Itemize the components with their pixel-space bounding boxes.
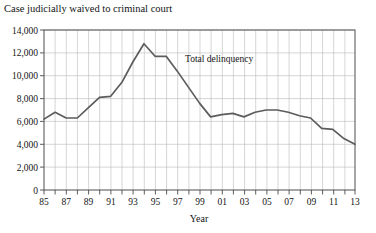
xtick-label-07: 07 (284, 197, 294, 207)
x-axis-title: Year (190, 213, 209, 224)
xtick-label-03: 03 (240, 197, 250, 207)
ytick-label-12000: 12,000 (12, 48, 38, 58)
xtick-label-93: 93 (128, 197, 138, 207)
xtick-label-91: 91 (106, 197, 116, 207)
xtick-label-95: 95 (151, 197, 161, 207)
ytick-label-10000: 10,000 (12, 71, 38, 81)
ytick-label-6000: 6,000 (17, 117, 39, 127)
x-tick-marks-group (44, 190, 355, 195)
xtick-label-89: 89 (84, 197, 94, 207)
ytick-label-0: 0 (33, 186, 38, 196)
ytick-label-2000: 2,000 (17, 163, 39, 173)
line-chart-plot: 14,000 12,000 10,000 8,000 6,000 4,000 2… (0, 0, 376, 233)
xtick-label-13: 13 (350, 197, 360, 207)
xtick-label-97: 97 (173, 197, 183, 207)
xtick-label-87: 87 (62, 197, 72, 207)
xtick-label-09: 09 (307, 197, 317, 207)
y-tick-marks-group (40, 30, 44, 190)
xtick-label-11: 11 (329, 197, 338, 207)
xtick-label-85: 85 (39, 197, 49, 207)
ytick-label-14000: 14,000 (12, 26, 38, 36)
xtick-label-99: 99 (195, 197, 205, 207)
x-axis-labels-group: 85 87 89 91 93 95 97 99 01 03 05 07 09 1… (39, 197, 360, 207)
chart-figure: Case judicially waived to criminal court (0, 0, 376, 233)
xtick-label-01: 01 (218, 197, 228, 207)
y-axis-labels-group: 14,000 12,000 10,000 8,000 6,000 4,000 2… (12, 26, 38, 196)
ytick-label-8000: 8,000 (17, 94, 39, 104)
xtick-label-05: 05 (262, 197, 272, 207)
series-annotation-total-delinquency: Total delinquency (185, 54, 253, 64)
ytick-label-4000: 4,000 (17, 140, 39, 150)
